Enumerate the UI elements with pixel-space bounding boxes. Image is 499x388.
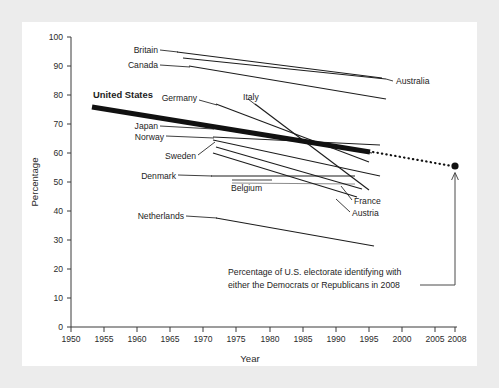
leader-line-germany: [199, 100, 217, 105]
series-label-austria: Austria: [352, 208, 379, 218]
x-tick-1990: 1990: [326, 334, 345, 344]
y-tick-90: 90: [53, 61, 63, 71]
series-label-denmark: Denmark: [141, 171, 177, 181]
x-tick-1995: 1995: [359, 334, 378, 344]
series-label-sweden: Sweden: [165, 151, 196, 161]
callout-arrow: [420, 174, 455, 285]
series-lines: [92, 52, 386, 246]
y-tick-40: 40: [53, 206, 63, 216]
series-label-norway: Norway: [135, 132, 165, 142]
x-tick-1970: 1970: [193, 334, 212, 344]
callout-line-1: Percentage of U.S. electorate identifyin…: [228, 267, 402, 277]
y-tick-20: 20: [53, 264, 63, 274]
chart-canvas: 100 90 80 70 60 50 40 30 20 10 0 Percent…: [0, 0, 499, 388]
y-tick-30: 30: [53, 235, 63, 245]
x-tick-1975: 1975: [226, 334, 245, 344]
us-2008-callout: Percentage of U.S. electorate identifyin…: [228, 173, 458, 291]
leader-line-norway: [166, 136, 214, 138]
series-label-germany: Germany: [162, 93, 198, 103]
x-tick-1965: 1965: [160, 334, 179, 344]
leader-line-denmark: [178, 175, 212, 176]
us-projection-group: [373, 152, 459, 170]
series-label-britain: Britain: [134, 45, 159, 55]
leader-line-netherlands: [186, 216, 217, 218]
leader-line-britain: [160, 50, 178, 52]
series-label-australia: Australia: [396, 76, 430, 86]
x-tick-2000: 2000: [392, 334, 411, 344]
y-tick-10: 10: [53, 293, 63, 303]
y-axis-title: Percentage: [29, 157, 40, 206]
series-label-belgium: Belgium: [231, 183, 262, 193]
leader-line-canada: [160, 65, 190, 67]
series-label-united-states: United States: [93, 89, 153, 100]
x-tick-1950: 1950: [61, 334, 80, 344]
series-line-canada: [189, 66, 386, 99]
y-tick-60: 60: [53, 148, 63, 158]
x-tick-1980: 1980: [260, 334, 279, 344]
series-label-netherlands: Netherlands: [138, 211, 184, 221]
leader-line-sweden: [198, 142, 215, 155]
leader-line-austria: [336, 199, 350, 212]
series-line-netherlands: [216, 218, 374, 246]
y-axis: 100 90 80 70 60 50 40 30 20 10 0 Percent…: [29, 32, 71, 332]
x-axis: 1950 1955 1960 1965 1970 1975 1980 1985 …: [61, 327, 466, 364]
x-tick-2008: 2008: [447, 334, 466, 344]
series-label-italy: Italy: [243, 92, 259, 102]
y-tick-0: 0: [58, 322, 63, 332]
x-axis-title: Year: [240, 353, 260, 364]
series-label-canada: Canada: [128, 60, 158, 70]
series-line-us-projection: [373, 152, 452, 166]
x-tick-1955: 1955: [94, 334, 113, 344]
x-tick-1960: 1960: [127, 334, 146, 344]
y-tick-50: 50: [53, 177, 63, 187]
us-2008-endpoint-dot: [451, 162, 458, 169]
series-label-japan: Japan: [135, 121, 159, 131]
series-label-france: France: [354, 196, 381, 206]
y-tick-70: 70: [53, 119, 63, 129]
y-tick-100: 100: [49, 32, 64, 42]
leader-line-australia: [386, 79, 393, 81]
callout-line-2: either the Democrats or Republicans in 2…: [228, 280, 400, 290]
figure-frame: 100 90 80 70 60 50 40 30 20 10 0 Percent…: [0, 0, 499, 388]
y-tick-80: 80: [53, 90, 63, 100]
series-line-australia: [183, 58, 386, 79]
x-tick-1985: 1985: [293, 334, 312, 344]
x-tick-2005: 2005: [425, 334, 444, 344]
series-line-britain: [177, 52, 382, 78]
